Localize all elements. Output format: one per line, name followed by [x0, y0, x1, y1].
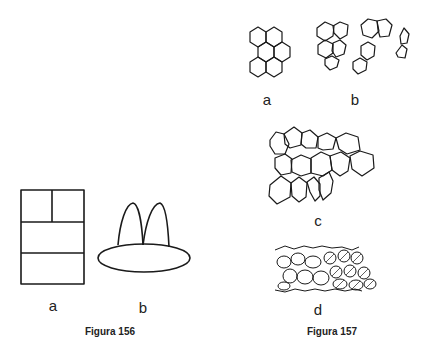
- figure-156-caption: Figura 156: [85, 327, 135, 337]
- figure-157a-hexagons: [250, 27, 290, 77]
- figure-156b-ellipse-with-lobes: [98, 203, 190, 272]
- figure-157c-label: c: [314, 213, 322, 228]
- figure-156a-cell-grid: [21, 190, 84, 284]
- figure-157b-irregular-cells: [317, 19, 409, 74]
- figure-157d-label: d: [314, 302, 322, 317]
- figure-157a-label: a: [263, 92, 271, 107]
- figures-canvas: [0, 0, 426, 350]
- figure-156a-label: a: [49, 298, 57, 313]
- figure-156b-label: b: [139, 300, 147, 315]
- figure-157d-tissue: [275, 246, 376, 292]
- figure-157b-label: b: [351, 92, 359, 107]
- figure-157-caption: Figura 157: [307, 327, 357, 337]
- figure-157c-polygonal-sheet: [269, 127, 374, 204]
